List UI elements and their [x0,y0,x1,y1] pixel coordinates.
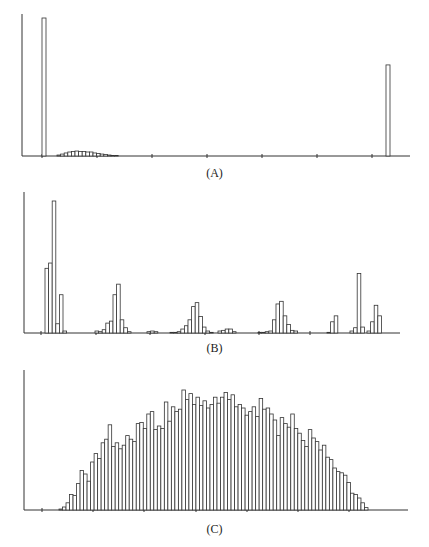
histogram-bar [231,395,235,510]
histogram-bar [280,418,284,510]
histogram-bar [171,407,175,510]
histogram-bar [86,152,90,156]
histogram-bar [238,404,242,510]
histogram-bar [115,443,119,510]
histogram-bar [184,326,188,333]
histogram-bar [112,446,116,510]
histogram-bar [305,446,309,510]
histogram-bar [59,295,63,333]
histogram-bar [354,494,358,510]
histogram-bar [235,407,239,510]
histogram-bar [127,332,131,333]
histogram-bar [357,498,361,510]
histogram-bar [265,332,269,333]
histogram-bar [42,18,46,156]
histogram-bar [327,332,331,333]
histogram-bar [229,329,233,333]
histogram-bar [182,390,186,510]
histogram-bar [272,320,276,333]
histogram-bar [79,152,83,156]
histogram-bar [107,155,111,156]
histogram-bar [99,332,103,333]
histogram-bar [242,408,246,510]
histogram-bar [315,442,319,510]
histogram-bar [290,330,294,333]
histogram-bar [66,503,70,510]
histogram-bar [117,284,121,333]
histogram-bar [136,424,140,510]
histogram-bar [174,332,178,333]
histogram-bar [298,433,302,510]
histogram-bar [91,462,95,510]
histogram-bar [154,430,158,510]
histogram-bar [291,414,295,510]
histogram-bar [71,152,75,156]
histogram-bar [59,509,63,510]
histogram-bar [354,328,358,333]
histogram-bar [331,322,335,333]
histogram-bar [150,412,154,510]
histogram-bar [157,426,161,510]
histogram-bar [94,454,98,510]
histogram-bar [249,412,253,510]
histogram-bar [175,412,179,510]
histogram-bar [322,445,326,510]
histogram-bar [181,329,185,333]
histogram-bar [147,332,151,333]
histogram-bar [102,330,106,333]
histogram-bar [334,316,338,333]
histogram-bar [232,332,236,333]
histogram-bar [63,507,67,510]
histogram-bar [224,392,228,510]
panel-b-caption: (B) [0,341,429,356]
histogram-bar [273,420,277,510]
histogram-bar [151,331,155,333]
histogram-bar [113,295,117,333]
panel-b: (B) [0,180,429,360]
histogram-bar [308,430,312,510]
histogram-bar [326,457,330,510]
histogram-bar [119,449,123,510]
histogram-bar [177,332,181,333]
histogram-bar [170,332,174,333]
histogram-bar [75,151,79,156]
histogram-a [0,0,429,165]
histogram-bar [301,440,305,510]
histogram-bar [270,414,274,510]
histogram-bar [56,324,60,333]
histogram-bar [77,484,81,510]
histogram-bar [245,415,249,510]
histogram-bar [329,460,333,510]
histogram-bar [222,330,226,333]
histogram-bar [287,427,291,510]
histogram-bar [68,152,72,156]
panel-c: (C) [0,360,429,547]
histogram-bar [115,155,119,156]
histogram-bar [105,439,109,510]
histogram-bar [168,421,172,510]
histogram-bar [161,428,165,510]
histogram-bar [210,332,214,333]
histogram-bar [367,331,371,333]
histogram-bar [340,473,344,510]
histogram-bar [210,404,214,510]
histogram-bar [195,303,199,333]
panel-a-caption: (A) [0,166,429,181]
histogram-bar [283,316,287,333]
panel-c-caption: (C) [0,522,429,537]
histogram-bar [57,155,61,156]
histogram-bar [206,331,210,333]
histogram-bar [336,472,340,510]
histogram-bar [199,406,203,510]
histogram-bar [343,475,347,510]
histogram-bar [218,331,222,333]
histogram-bar [214,397,218,510]
histogram-bar [196,397,200,510]
histogram-bar [185,400,189,510]
histogram-bar [84,474,88,510]
histogram-bar [284,424,288,510]
histogram-bar [154,332,158,333]
histogram-bar [206,408,210,510]
histogram-bar [192,404,196,510]
histogram-bar [269,331,273,333]
